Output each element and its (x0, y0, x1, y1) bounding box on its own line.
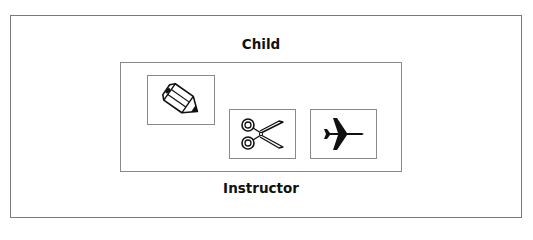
scissors-card (229, 109, 296, 159)
scissors-icon (239, 116, 287, 152)
airplane-icon (322, 115, 366, 153)
pencil-icon (159, 82, 203, 118)
child-label: Child (161, 36, 361, 52)
instructor-label: Instructor (161, 180, 361, 196)
airplane-card (310, 109, 377, 159)
pencil-card (147, 75, 215, 125)
